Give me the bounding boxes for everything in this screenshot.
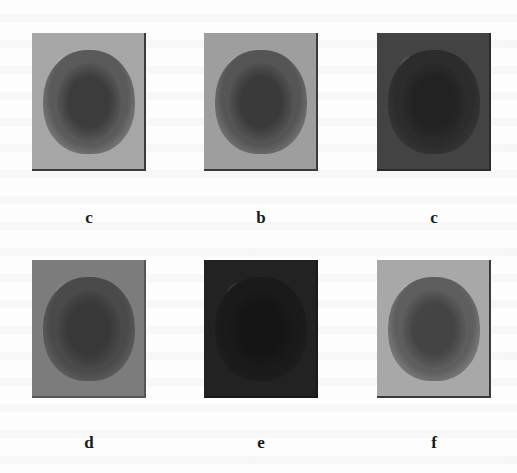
- panel-label: c: [74, 209, 104, 226]
- panel-label: f: [419, 434, 449, 451]
- panel-label: d: [74, 434, 104, 451]
- brain-scan-panel-c-top: [32, 33, 146, 171]
- brain-core: [402, 63, 466, 140]
- brain-scan-panel-f: [377, 260, 491, 398]
- brain-scan-panel-b: [204, 33, 318, 171]
- brain-core: [229, 63, 293, 140]
- brain-core: [57, 290, 121, 367]
- panel-label: b: [246, 209, 276, 226]
- brain-core: [229, 290, 293, 367]
- brain-scan-panel-c-right: [377, 33, 491, 171]
- brain-core: [57, 63, 121, 140]
- panel-label: e: [246, 434, 276, 451]
- brain-scan-panel-e: [204, 260, 318, 398]
- brain-scan-panel-d: [32, 260, 146, 398]
- panel-label: c: [419, 209, 449, 226]
- brain-core: [402, 290, 466, 367]
